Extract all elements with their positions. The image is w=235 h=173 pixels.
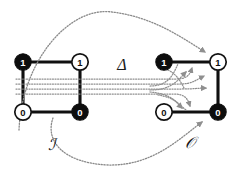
node-o-bottom-left[interactable]: 0 — [156, 104, 172, 120]
transform-label-delta: Δ — [116, 56, 126, 73]
node-o-top-left[interactable]: 1 — [156, 54, 172, 70]
input-structure-label: ℐ — [48, 136, 58, 153]
node-i-bottom-left-label: 0 — [20, 107, 25, 118]
node-i-top-right-label: 1 — [77, 57, 83, 68]
left-structure-edges — [23, 62, 80, 112]
node-i-top-right[interactable]: 1 — [72, 54, 88, 70]
output-structure-label: 𝒪 — [185, 134, 199, 151]
node-i-bottom-left[interactable]: 0 — [15, 104, 31, 120]
diagram-svg: 1 1 0 0 1 1 — [0, 0, 235, 173]
node-i-top-left-label: 1 — [20, 57, 26, 68]
map-under-bottom-arc — [51, 118, 202, 165]
node-o-top-right-label: 1 — [215, 57, 221, 68]
node-o-top-left-label: 1 — [161, 57, 167, 68]
map-band-3-line — [16, 88, 206, 89]
node-i-top-left[interactable]: 1 — [15, 54, 31, 70]
node-o-top-right[interactable]: 1 — [210, 54, 226, 70]
node-o-bottom-right[interactable]: 0 — [210, 104, 226, 120]
node-i-bottom-right-label: 0 — [77, 107, 82, 118]
node-o-bottom-left-label: 0 — [161, 107, 166, 118]
left-structure-nodes: 1 1 0 0 — [15, 54, 88, 120]
mapping-arcs — [16, 12, 206, 165]
diagram-canvas: 1 1 0 0 1 1 — [0, 0, 235, 173]
node-i-bottom-right[interactable]: 0 — [72, 104, 88, 120]
node-o-bottom-right-label: 0 — [215, 107, 220, 118]
